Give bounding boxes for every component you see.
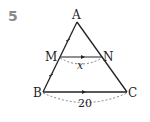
label-n: N <box>103 50 114 64</box>
parallel-arrow-bc-icon <box>82 90 86 94</box>
label-m: M <box>45 50 57 64</box>
label-c: C <box>128 86 137 100</box>
label-20: 20 <box>78 97 92 110</box>
triangle-diagram: A M N B C x 20 <box>0 0 150 122</box>
label-a: A <box>71 8 81 22</box>
label-x: x <box>77 59 84 72</box>
label-b: B <box>33 86 42 100</box>
